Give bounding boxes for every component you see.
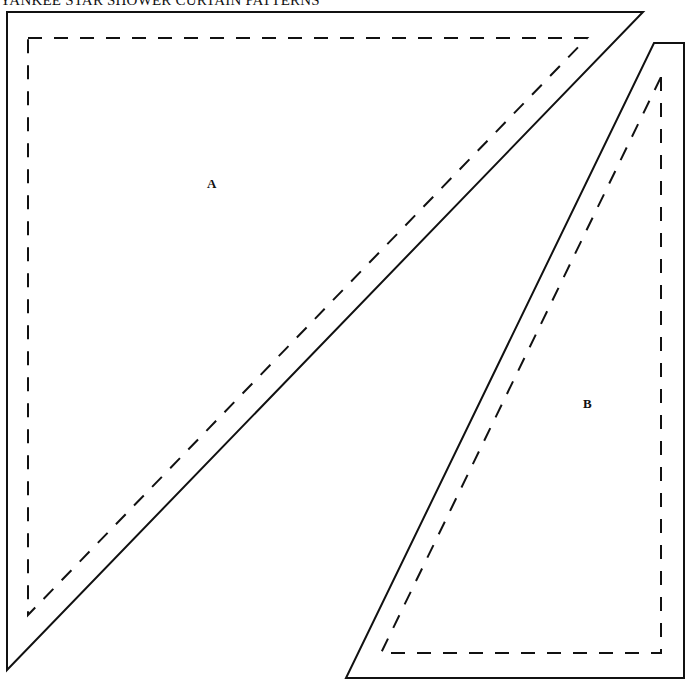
piece-b-cut-line [346,43,684,678]
piece-a-label: A [207,176,216,192]
pattern-canvas [0,0,687,680]
piece-b-seam-line [381,77,661,653]
pattern-piece-b [346,43,684,678]
piece-a-cut-line [7,12,643,670]
piece-b-label: B [583,396,592,412]
pattern-piece-a [7,12,643,670]
piece-a-seam-line [28,38,587,615]
